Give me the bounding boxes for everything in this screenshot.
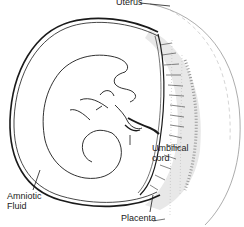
amnion-wall [140, 34, 164, 195]
label-amniotic-line1: Amniotic [7, 191, 42, 201]
label-amniotic-fluid: Amniotic Fluid [7, 191, 42, 211]
label-umbilical-line2: cord [152, 153, 189, 163]
label-placenta: Placenta [121, 213, 156, 223]
fetus [43, 55, 142, 178]
umbilical-cord [128, 118, 159, 134]
placenta-region [145, 30, 201, 215]
uterus-leader-line [140, 3, 170, 6]
fetus-uterus-diagram: Uterus Umbilical cord Amniotic Fluid Pla… [0, 0, 244, 227]
label-uterus: Uterus [116, 0, 143, 7]
label-umbilical-line1: Umbilical [152, 143, 189, 153]
label-amniotic-line2: Fluid [7, 201, 42, 211]
label-umbilical-cord: Umbilical cord [152, 143, 189, 163]
